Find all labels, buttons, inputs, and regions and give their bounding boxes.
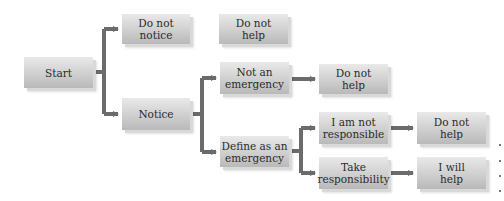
edge-tick-marks [497, 140, 503, 200]
node-i-am-not-responsible: I am not responsible [319, 112, 388, 144]
node-start: Start [24, 57, 93, 88]
node-not-an-emergency: Not an emergency [220, 62, 289, 94]
node-do-not-help-low: Do not help [417, 112, 486, 144]
node-notice: Notice [122, 98, 190, 130]
node-do-not-help-mid: Do not help [319, 64, 388, 94]
node-do-not-help-top: Do not help [219, 14, 288, 44]
tick-mark [499, 190, 501, 192]
node-do-not-notice: Do not notice [122, 14, 190, 44]
bystander-flowchart: Start Do not notice Do not help Notice N… [0, 0, 504, 201]
node-take-responsibility: Take responsibility [319, 157, 388, 189]
node-define-as-emergency: Define as an emergency [220, 136, 289, 167]
tick-mark [499, 144, 501, 146]
node-i-will-help: I will help [417, 157, 486, 189]
tick-mark [499, 160, 501, 162]
tick-mark [499, 175, 501, 177]
